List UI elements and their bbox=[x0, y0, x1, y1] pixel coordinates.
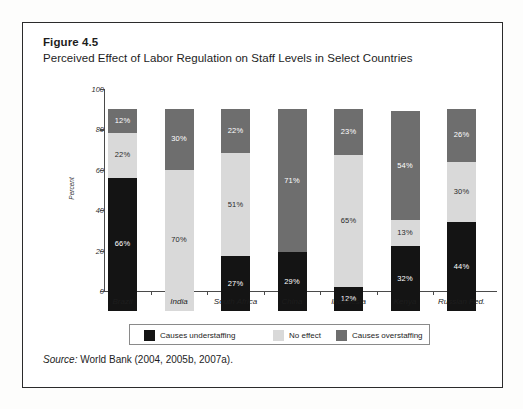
bar-segment-value-label: 29% bbox=[278, 277, 307, 286]
x-axis-tick-mark bbox=[207, 291, 208, 295]
figure-page: Figure 4.5 Perceived Effect of Labor Reg… bbox=[0, 0, 523, 409]
y-axis-tick-mark bbox=[100, 170, 104, 171]
bar-column[interactable]: 32%13%54% bbox=[391, 109, 420, 311]
bar-segment-value-label: 13% bbox=[391, 228, 420, 237]
bar-segment-value-label: 51% bbox=[221, 200, 250, 209]
bar-column[interactable]: 12%65%23% bbox=[334, 109, 363, 311]
figure-subtitle: Perceived Effect of Labor Regulation on … bbox=[43, 50, 483, 66]
x-axis-tick-mark bbox=[433, 291, 434, 295]
source-citation: World Bank (2004, 2005b, 2007a). bbox=[77, 354, 232, 365]
y-axis-tick-mark bbox=[100, 89, 104, 90]
x-axis-tick-mark bbox=[264, 291, 265, 295]
y-axis-title: Percent bbox=[68, 159, 75, 219]
x-axis-tick-mark bbox=[377, 291, 378, 295]
bar-segment-value-label: 71% bbox=[278, 176, 307, 185]
legend-swatch-icon bbox=[273, 330, 284, 341]
legend-label: Causes understaffing bbox=[160, 331, 235, 340]
bar-segment-no-effect[interactable]: 70% bbox=[165, 170, 194, 311]
bar-segment-overstaffing[interactable]: 12% bbox=[108, 109, 137, 133]
bar-segment-value-label: 30% bbox=[165, 134, 194, 143]
chart-legend: Causes understaffingNo effectCauses over… bbox=[129, 324, 430, 345]
bar-segment-value-label: 26% bbox=[447, 130, 476, 139]
bar-segment-overstaffing[interactable]: 71% bbox=[278, 109, 307, 252]
bar-segment-overstaffing[interactable]: 22% bbox=[221, 109, 250, 153]
bar-segment-value-label: 27% bbox=[221, 279, 250, 288]
bar-segment-value-label: 66% bbox=[108, 239, 137, 248]
bar-segment-value-label: 12% bbox=[108, 116, 137, 125]
bar-segment-overstaffing[interactable]: 54% bbox=[391, 111, 420, 220]
bar-segment-overstaffing[interactable]: 23% bbox=[334, 109, 363, 155]
bar-column[interactable]: 44%30%26% bbox=[447, 109, 476, 311]
legend-swatch-icon bbox=[144, 330, 155, 341]
bar-segment-no-effect[interactable]: 22% bbox=[108, 133, 137, 177]
chart-plot-area: Percent 020406080100 66%22%12%70%30%27%5… bbox=[57, 89, 497, 311]
legend-item[interactable]: Causes understaffing bbox=[144, 329, 235, 342]
bar-segment-no-effect[interactable]: 13% bbox=[391, 220, 420, 246]
legend-label: Causes overstaffing bbox=[352, 331, 423, 340]
x-axis-tick-mark bbox=[151, 291, 152, 295]
bar-segment-value-label: 22% bbox=[108, 150, 137, 159]
y-axis-tick-mark bbox=[100, 129, 104, 130]
bar-segment-overstaffing[interactable]: 26% bbox=[447, 109, 476, 162]
source-note: Source: World Bank (2004, 2005b, 2007a). bbox=[43, 354, 233, 365]
y-axis-tick-mark bbox=[100, 210, 104, 211]
bar-column[interactable]: 29%71% bbox=[278, 109, 307, 311]
bar-segment-value-label: 22% bbox=[221, 126, 250, 135]
bar-segment-value-label: 32% bbox=[391, 274, 420, 283]
bar-segment-no-effect[interactable]: 51% bbox=[221, 153, 250, 256]
bar-column[interactable]: 70%30% bbox=[165, 109, 194, 311]
x-axis-tick-mark bbox=[320, 291, 321, 295]
y-axis-line bbox=[104, 89, 105, 291]
source-label: Source: bbox=[43, 354, 77, 365]
figure-number: Figure 4.5 bbox=[43, 35, 483, 50]
bar-segment-value-label: 30% bbox=[447, 187, 476, 196]
figure-frame: Figure 4.5 Perceived Effect of Labor Reg… bbox=[22, 22, 503, 388]
y-axis-tick-mark bbox=[100, 251, 104, 252]
y-axis-tick-mark bbox=[100, 291, 104, 292]
bar-segment-value-label: 23% bbox=[334, 127, 363, 136]
legend-label: No effect bbox=[289, 331, 321, 340]
legend-item[interactable]: No effect bbox=[273, 329, 321, 342]
bar-segment-overstaffing[interactable]: 30% bbox=[165, 109, 194, 170]
bar-segment-value-label: 65% bbox=[334, 216, 363, 225]
legend-item[interactable]: Causes overstaffing bbox=[336, 329, 423, 342]
figure-title-block: Figure 4.5 Perceived Effect of Labor Reg… bbox=[43, 35, 483, 66]
bar-segment-value-label: 44% bbox=[447, 262, 476, 271]
bar-segment-value-label: 54% bbox=[391, 161, 420, 170]
x-axis-label: Russian Fed. bbox=[416, 297, 508, 306]
bar-segment-no-effect[interactable]: 30% bbox=[447, 162, 476, 223]
bar-column[interactable]: 27%51%22% bbox=[221, 109, 250, 311]
bar-segment-value-label: 70% bbox=[165, 235, 194, 244]
bar-column[interactable]: 66%22%12% bbox=[108, 109, 137, 311]
legend-swatch-icon bbox=[336, 330, 347, 341]
bar-segment-understaffing[interactable]: 66% bbox=[108, 178, 137, 311]
bar-segment-no-effect[interactable]: 65% bbox=[334, 155, 363, 286]
